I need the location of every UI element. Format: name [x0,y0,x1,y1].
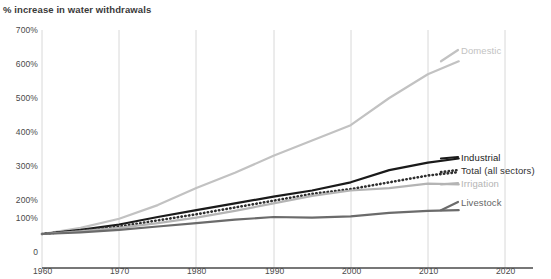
x-tick-1970: 1970 [110,266,129,276]
y-tick-100: 100% [0,213,38,223]
y-tick-600: 600% [0,59,38,69]
x-tick-1990: 1990 [265,266,284,276]
x-tick-2010: 2010 [419,266,438,276]
y-tick-300: 300% [0,161,38,171]
x-tick-2020: 2020 [496,266,515,276]
series-label-livestock: Livestock [461,197,502,208]
x-tick-2000: 2000 [342,266,361,276]
chart-plot-area [0,0,551,279]
gridlines [42,30,505,268]
legend-swatch-irrigation [441,183,458,184]
y-tick-700: 700% [0,25,38,35]
x-tick-1980: 1980 [187,266,206,276]
series-label-irrigation: Irrigation [461,178,499,189]
legend-swatch-industrial [441,157,458,159]
series-label-industrial: Industrial [461,152,501,163]
x-tick-1960: 1960 [33,266,52,276]
y-tick-200: 200% [0,195,38,205]
water-withdrawals-chart: % increase in water withdrawals 700% 600… [0,0,551,279]
y-tick-400: 400% [0,127,38,137]
legend-swatch-domestic [441,50,458,61]
legend-swatch-livestock [441,202,458,210]
series-label-domestic: Domestic [461,45,501,56]
series-lines [42,50,459,234]
series-path-total-all-sectors [42,172,459,234]
series-label-total: Total (all sectors) [461,165,535,176]
y-tick-0: 0 [0,247,38,257]
y-tick-500: 500% [0,93,38,103]
